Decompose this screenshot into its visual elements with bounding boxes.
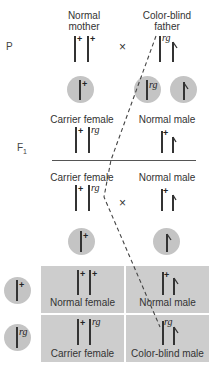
x-chromosome — [159, 36, 161, 62]
mother-label-line1: Normal — [62, 10, 106, 21]
x-chromosome — [77, 270, 79, 295]
punnett-cell-carrier-female: + rg Carrier female — [41, 315, 124, 362]
y-chromosome — [172, 42, 174, 62]
allele-colorblind: rg — [164, 317, 173, 326]
cell-label: Normal male — [126, 297, 209, 308]
f1-female-label: Carrier female — [50, 114, 114, 125]
mother-label-line2: mother — [62, 21, 106, 32]
punnett-cell-normal-male: + Normal male — [126, 266, 209, 313]
allele-normal: + — [82, 80, 87, 89]
x-chromosome — [88, 185, 90, 211]
y-chromosome — [166, 234, 168, 252]
x-chromosome — [87, 36, 89, 62]
allele-normal: + — [90, 35, 95, 44]
cell-label: Color-blind male — [126, 348, 209, 359]
gamete-father-x: rg — [134, 76, 161, 103]
allele-normal: + — [163, 129, 168, 138]
f1-cross-male-label: Normal male — [138, 172, 196, 183]
y-chromosome — [172, 137, 174, 153]
allele-normal: + — [92, 270, 97, 279]
cross-symbol: × — [119, 40, 126, 54]
father-label-line1: Color-blind — [137, 10, 197, 21]
allele-normal: + — [19, 281, 24, 290]
allele-normal: + — [80, 319, 85, 328]
mother-label: Normal mother — [62, 10, 106, 32]
x-chromosome — [75, 127, 77, 153]
allele-colorblind: rg — [19, 327, 28, 336]
x-chromosome — [16, 327, 18, 348]
allele-normal: + — [78, 185, 83, 194]
cell-label: Carrier female — [41, 348, 124, 359]
x-chromosome — [146, 80, 148, 100]
x-chromosome — [77, 319, 79, 345]
generation-f1-label: F1 — [17, 142, 27, 155]
gamete-female-colorblind: rg — [4, 324, 31, 351]
x-chromosome — [88, 127, 90, 153]
gamete-male-y — [153, 228, 180, 255]
allele-normal: + — [83, 232, 88, 241]
gamete-female-normal: + — [4, 277, 31, 304]
punnett-cell-colorblind-male: rg Color-blind male — [126, 315, 209, 362]
y-chromosome — [173, 278, 175, 295]
allele-normal: + — [78, 127, 83, 136]
x-chromosome — [80, 231, 82, 252]
generation-p-label: P — [6, 41, 13, 52]
allele-colorblind: rg — [91, 125, 100, 134]
x-chromosome — [89, 270, 91, 295]
allele-normal: + — [163, 187, 168, 196]
allele-colorblind: rg — [162, 33, 171, 42]
x-chromosome — [16, 280, 18, 301]
gamete-father-y — [170, 76, 197, 103]
y-chromosome — [172, 195, 174, 211]
x-chromosome — [79, 80, 81, 100]
punnett-cell-normal-female: + + Normal female — [41, 266, 124, 313]
father-label: Color-blind father — [137, 10, 197, 32]
x-chromosome — [89, 319, 91, 345]
generation-divider — [52, 160, 196, 161]
y-chromosome — [183, 82, 185, 100]
allele-normal: + — [80, 270, 85, 279]
allele-colorblind: rg — [149, 80, 158, 89]
cross-symbol: × — [119, 196, 126, 210]
generation-f1-sub: 1 — [23, 148, 27, 155]
father-label-line2: father — [137, 21, 197, 32]
allele-normal: + — [164, 271, 169, 280]
allele-normal: + — [77, 35, 82, 44]
allele-colorblind: rg — [92, 317, 101, 326]
cell-label: Normal female — [41, 297, 124, 308]
allele-colorblind: rg — [91, 183, 100, 192]
f1-male-label: Normal male — [138, 114, 196, 125]
y-chromosome — [173, 327, 175, 345]
gamete-mother: + — [67, 76, 94, 103]
gamete-male-x: + — [68, 228, 95, 255]
x-chromosome — [74, 36, 76, 62]
f1-cross-female-label: Carrier female — [50, 172, 114, 183]
x-chromosome — [75, 185, 77, 211]
